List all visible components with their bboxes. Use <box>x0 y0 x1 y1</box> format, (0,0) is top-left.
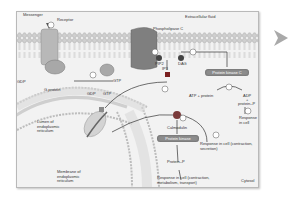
pathway-illustration <box>17 12 258 187</box>
label-extracellular-fluid: Extracellular fluid <box>185 15 215 20</box>
label-gdp: GDP <box>17 80 26 85</box>
label-g-protein: G protein <box>44 88 60 93</box>
label-er-lumen: Lumen of endoplasmic reticulum <box>37 120 67 134</box>
label-response-right: Response in cell <box>239 116 259 125</box>
label-gtp-mid: GTP <box>103 92 111 97</box>
label-gdp-mid: GDP <box>87 92 96 97</box>
label-protein-p-right: protein–P <box>238 102 255 107</box>
er-membrane <box>17 88 159 187</box>
label-calmodulin: Calmodulin <box>167 126 187 131</box>
ip3-molecule <box>165 72 170 77</box>
chevron-right-icon[interactable] <box>274 30 288 46</box>
label-response-secretion: Response in cell (contraction, secretion… <box>200 142 256 151</box>
label-gtp-right: GTP <box>113 79 121 84</box>
diagram-frame: Messenger Receptor GDP G protein GDP GTP… <box>16 11 259 188</box>
protein-kinase: Protein kinase <box>157 135 199 142</box>
phospholipase-c <box>131 27 157 69</box>
label-cytosol: Cytosol <box>241 179 254 184</box>
label-dag: DAG <box>178 62 187 67</box>
label-protein-p: Protein–P <box>167 160 185 165</box>
label-messenger: Messenger <box>23 13 43 18</box>
g-protein <box>45 60 65 74</box>
protein-kinase-c: Protein kinase C <box>205 69 249 76</box>
label-response-bottom: Response in cell (contraction, metabolis… <box>157 176 223 185</box>
receptor <box>41 29 58 65</box>
label-atp-protein: ATP + protein <box>189 94 213 99</box>
label-er-membrane: Membrane of endoplasmic reticulum <box>57 170 87 184</box>
label-receptor: Receptor <box>57 18 73 23</box>
label-ip3: IP3 <box>162 67 168 72</box>
label-phospholipase-c: Phospholipase C <box>153 27 183 32</box>
